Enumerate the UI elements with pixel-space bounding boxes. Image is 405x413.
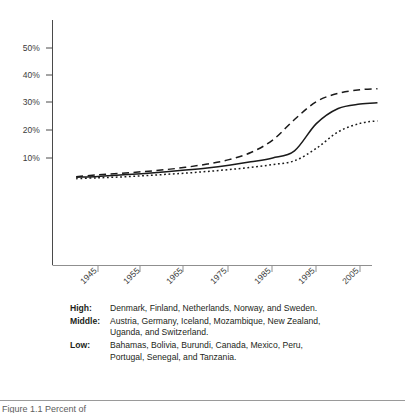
chart-series-layer [76,89,377,179]
legend-line: Bahamas, Bolivia, Burundi, Canada, Mexic… [110,340,390,351]
chart-svg [0,0,405,300]
legend-value-middle: Austria, Germany, Iceland, Mozambique, N… [110,316,390,339]
legend-row-middle: Middle: Austria, Germany, Iceland, Mozam… [70,316,390,339]
ytick-label-30: 30% [14,97,40,107]
footer-divider [0,400,405,401]
legend-line: Uganda, and Switzerland. [110,327,390,338]
legend-line: Denmark, Finland, Netherlands, Norway, a… [110,303,390,314]
figure-root: 50% 40% 30% 20% 10% 1945 1955 1965 1975 … [0,0,405,413]
legend-value-high: Denmark, Finland, Netherlands, Norway, a… [110,303,390,314]
ytick-label-20: 20% [14,125,40,135]
legend-key-high: High: [70,303,110,314]
chart-plot-area: 50% 40% 30% 20% 10% 1945 1955 1965 1975 … [0,0,405,300]
legend-row-high: High: Denmark, Finland, Netherlands, Nor… [70,303,390,314]
legend-line: Portugal, Senegal, and Tanzania. [110,352,390,363]
legend-line: Austria, Germany, Iceland, Mozambique, N… [110,316,390,327]
series-line-middle [76,103,377,178]
ytick-label-10: 10% [14,153,40,163]
figure-caption: Figure 1.1 Percent of [2,404,402,413]
chart-legend: High: Denmark, Finland, Netherlands, Nor… [70,303,390,365]
series-line-high [76,89,377,177]
legend-row-low: Low: Bahamas, Bolivia, Burundi, Canada, … [70,340,390,363]
ytick-label-40: 40% [14,70,40,80]
ytick-label-50: 50% [14,43,40,53]
legend-key-middle: Middle: [70,316,110,327]
series-line-low [76,121,377,179]
y-tick-marks [46,48,53,158]
legend-value-low: Bahamas, Bolivia, Burundi, Canada, Mexic… [110,340,390,363]
legend-key-low: Low: [70,340,110,351]
